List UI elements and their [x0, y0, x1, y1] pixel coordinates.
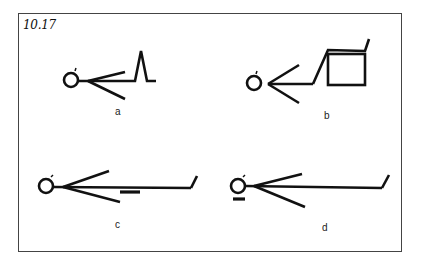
arm-lower: [88, 81, 125, 99]
arm-upper: [88, 72, 125, 81]
legs-on-box: [313, 39, 369, 84]
arm-lower: [63, 187, 120, 202]
head-icon: [247, 76, 261, 90]
panel-label-c: c: [115, 219, 120, 230]
arm-upper: [63, 171, 109, 187]
arm-lower: [254, 186, 305, 207]
arm-upper: [268, 65, 299, 84]
legs-bent: [130, 51, 156, 81]
feet: [382, 175, 389, 188]
support-box: [328, 54, 365, 85]
diagram-canvas: [0, 0, 422, 266]
panel-label-b: b: [324, 110, 330, 121]
head-icon: [64, 73, 78, 87]
panel-c-figure: [39, 171, 197, 202]
body-line: [245, 186, 382, 188]
panel-b-figure: [247, 39, 369, 103]
body-line: [53, 187, 191, 188]
head-icon: [231, 179, 245, 193]
head-icon: [39, 179, 53, 193]
arm-upper: [254, 174, 302, 186]
feet: [191, 176, 197, 188]
panel-label-a: a: [115, 106, 121, 117]
arm-lower: [268, 84, 299, 103]
panel-d-figure: [231, 174, 389, 207]
panel-label-d: d: [322, 222, 328, 233]
panel-a-figure: [64, 51, 156, 99]
